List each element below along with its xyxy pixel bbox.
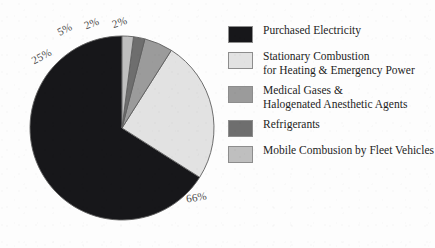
legend-item: Mobile Combusion by Fleet Vehicles (228, 144, 433, 163)
legend-item: Medical Gases &Halogenated Anesthetic Ag… (228, 84, 433, 111)
legend-swatch (228, 26, 253, 43)
legend-label: Mobile Combusion by Fleet Vehicles (263, 144, 434, 158)
legend-label: Refrigerants (263, 118, 320, 132)
legend-swatch (228, 120, 253, 137)
pie-plot-area: 66% 25% 5% 2% 2% (0, 0, 230, 248)
legend-label: Stationary Combustionfor Heating & Emerg… (263, 50, 415, 77)
legend-label-line2: Halogenated Anesthetic Agents (263, 98, 407, 112)
legend-label: Purchased Electricity (263, 24, 361, 38)
pie-svg (0, 0, 230, 248)
legend-item: Refrigerants (228, 118, 433, 137)
legend-swatch (228, 146, 253, 163)
legend-swatch (228, 52, 253, 69)
legend: Purchased ElectricityStationary Combusti… (228, 24, 433, 170)
legend-label-line2: for Heating & Emergency Power (263, 64, 415, 78)
legend-item: Purchased Electricity (228, 24, 433, 43)
legend-label: Medical Gases &Halogenated Anesthetic Ag… (263, 84, 407, 111)
pie-chart-figure: 66% 25% 5% 2% 2% Purchased ElectricitySt… (0, 0, 435, 248)
legend-swatch (228, 86, 253, 103)
legend-item: Stationary Combustionfor Heating & Emerg… (228, 50, 433, 77)
